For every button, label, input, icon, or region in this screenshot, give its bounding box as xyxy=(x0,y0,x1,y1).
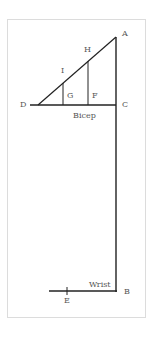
label-wrist: Wrist xyxy=(89,281,111,289)
label-e: E xyxy=(64,297,70,305)
label-d: D xyxy=(20,101,26,109)
label-bicep: Bicep xyxy=(73,112,96,120)
hypotenuse-d-a xyxy=(38,37,116,105)
label-a: A xyxy=(122,30,128,38)
label-b: B xyxy=(124,288,130,296)
label-g: G xyxy=(67,92,73,100)
label-i: I xyxy=(61,67,64,75)
label-h: H xyxy=(84,46,91,54)
label-c: C xyxy=(122,101,128,109)
label-f: F xyxy=(92,92,98,100)
